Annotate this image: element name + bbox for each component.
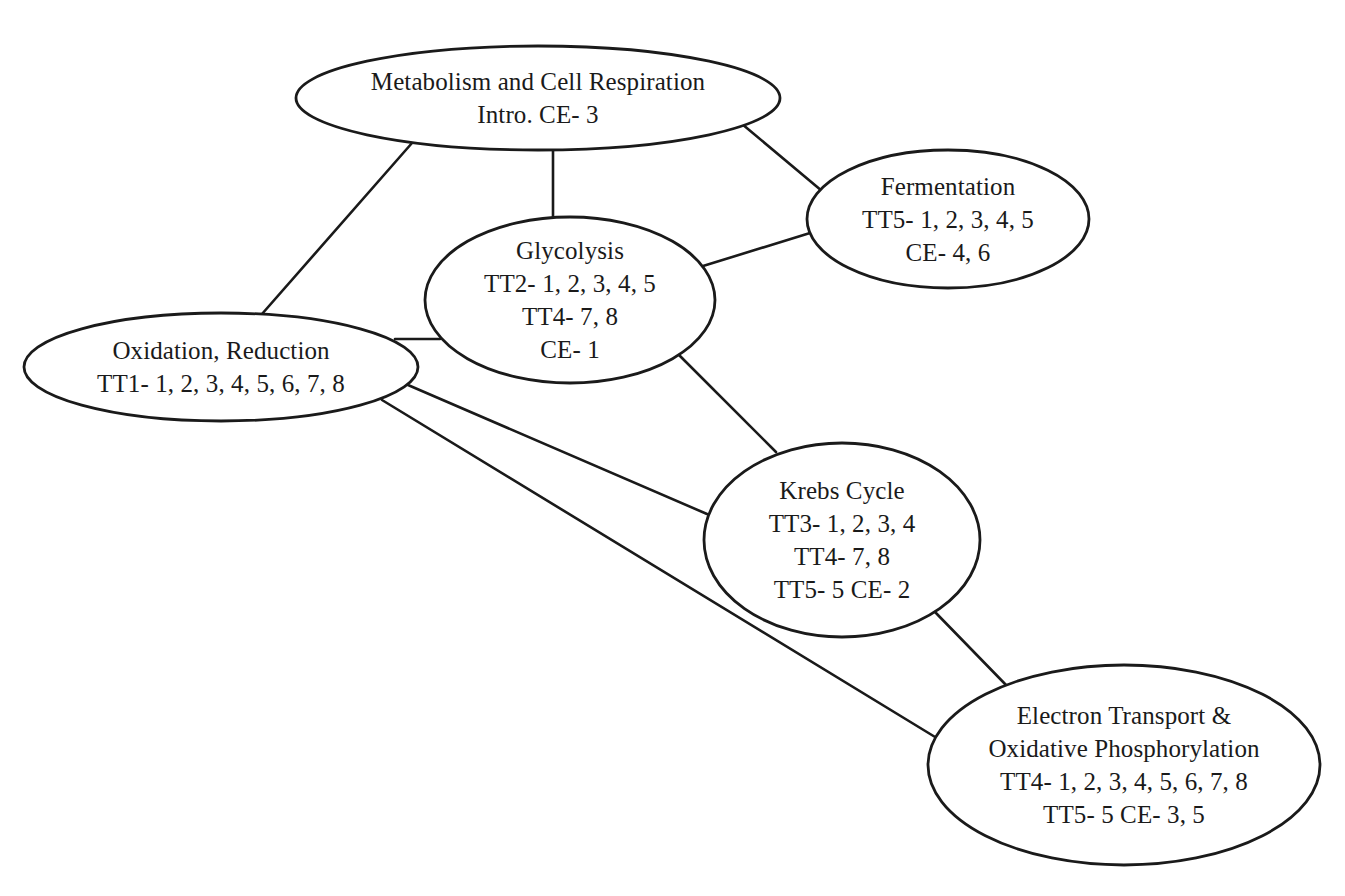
node-oxidation-reduction: Oxidation, ReductionTT1- 1, 2, 3, 4, 5, … bbox=[24, 313, 418, 421]
node-krebs-cycle: Krebs CycleTT3- 1, 2, 3, 4TT4- 7, 8TT5- … bbox=[704, 443, 980, 637]
node-detail-line: Oxidative Phosphorylation bbox=[988, 732, 1259, 765]
node-detail-line: CE- 1 bbox=[540, 333, 600, 366]
node-title: Oxidation, Reduction bbox=[112, 334, 329, 367]
node-detail-line: TT5- 5 CE- 2 bbox=[774, 573, 911, 606]
node-detail-line: TT4- 1, 2, 3, 4, 5, 6, 7, 8 bbox=[1000, 765, 1248, 798]
node-title: Krebs Cycle bbox=[779, 474, 904, 507]
node-metabolism: Metabolism and Cell RespirationIntro. CE… bbox=[296, 46, 780, 150]
node-detail-line: TT5- 1, 2, 3, 4, 5 bbox=[862, 203, 1034, 236]
edge-oxidation-reduction-to-krebs-cycle bbox=[408, 385, 707, 514]
node-detail-line: TT1- 1, 2, 3, 4, 5, 6, 7, 8 bbox=[97, 367, 345, 400]
node-fermentation: FermentationTT5- 1, 2, 3, 4, 5CE- 4, 6 bbox=[807, 150, 1089, 288]
node-detail-line: TT3- 1, 2, 3, 4 bbox=[769, 507, 916, 540]
node-detail-line: Intro. CE- 3 bbox=[477, 98, 598, 131]
node-detail-line: TT5- 5 CE- 3, 5 bbox=[1043, 798, 1205, 831]
concept-map-canvas: Metabolism and Cell RespirationIntro. CE… bbox=[0, 0, 1345, 896]
node-detail-line: TT2- 1, 2, 3, 4, 5 bbox=[484, 267, 656, 300]
edge-metabolism-to-oxidation-reduction bbox=[262, 143, 412, 314]
node-detail-line: TT4- 7, 8 bbox=[522, 300, 618, 333]
edge-glycolysis-to-fermentation bbox=[703, 233, 810, 266]
node-title: Metabolism and Cell Respiration bbox=[371, 65, 705, 98]
node-detail-line: TT4- 7, 8 bbox=[794, 540, 890, 573]
node-title: Fermentation bbox=[881, 170, 1016, 203]
node-glycolysis: GlycolysisTT2- 1, 2, 3, 4, 5TT4- 7, 8CE-… bbox=[425, 217, 715, 383]
node-title: Electron Transport & bbox=[1017, 699, 1232, 732]
node-electron-transport: Electron Transport &Oxidative Phosphoryl… bbox=[928, 665, 1320, 865]
node-detail-line: CE- 4, 6 bbox=[906, 236, 991, 269]
node-title: Glycolysis bbox=[516, 234, 624, 267]
